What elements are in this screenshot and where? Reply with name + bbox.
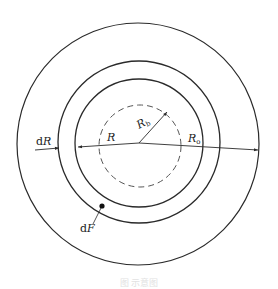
annular-disc-diagram: dR R Rb Ro dF: [0, 0, 278, 289]
label-rb: Rb: [133, 114, 152, 133]
figure-caption: 图 示意图: [0, 276, 278, 289]
label-df: dF: [80, 222, 95, 235]
label-ro: Ro: [187, 132, 201, 146]
df-point: [99, 203, 104, 208]
label-r: R: [106, 131, 115, 144]
label-dr: dR: [36, 135, 51, 148]
outer-circle: [17, 23, 259, 265]
dr-arrow: [35, 148, 59, 150]
